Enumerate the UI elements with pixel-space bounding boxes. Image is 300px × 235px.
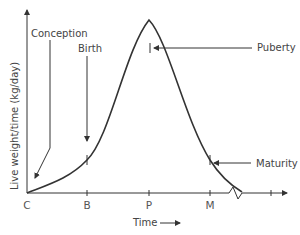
x-tick-p: P — [146, 199, 152, 211]
y-axis-label: Live weight/time (kg/day) — [9, 62, 20, 190]
x-tick-m: M — [205, 199, 214, 211]
annotation-birth: Birth — [78, 43, 102, 54]
conception-pointer — [35, 40, 50, 178]
x-axis — [27, 187, 287, 199]
growth-curve-diagram: C B P M Time Live weight/time (kg/day) C… — [0, 0, 300, 235]
growth-curve — [27, 20, 242, 193]
annotation-conception: Conception — [31, 28, 88, 39]
annotation-maturity: Maturity — [256, 158, 298, 169]
x-tick-b: B — [83, 199, 90, 211]
x-tick-c: C — [23, 199, 30, 211]
x-axis-label: Time — [132, 217, 157, 228]
annotation-puberty: Puberty — [257, 42, 296, 53]
